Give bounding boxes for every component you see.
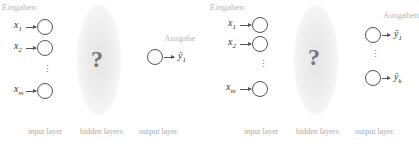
hidden-question-mark: ? xyxy=(308,44,320,71)
arrow-icon xyxy=(240,25,251,26)
hidden-question-mark: ? xyxy=(91,46,103,73)
input-var-xm: xm xyxy=(14,83,24,97)
arrow-icon xyxy=(26,91,36,92)
input-var-x1: x1 xyxy=(228,17,236,31)
output-layer-label: output layer xyxy=(355,127,393,136)
input-layer-label: input layer xyxy=(244,127,278,136)
inputs-label: Eingaben xyxy=(210,2,244,12)
vertical-ellipsis-output: ⋮ xyxy=(371,53,380,56)
input-node-m xyxy=(37,83,53,99)
diagram-single-output: Eingaben x1 x2 ⋮ xm ? Ausgabe ŷ1 input l… xyxy=(0,0,208,147)
output-var-y1: ŷ1 xyxy=(394,28,402,42)
output-layer-label: output layer xyxy=(139,127,177,136)
arrow-icon xyxy=(164,57,174,58)
arrow-icon xyxy=(26,48,36,49)
vertical-ellipsis: ⋮ xyxy=(43,68,52,71)
input-var-x2: x2 xyxy=(14,40,22,54)
input-var-x1: x1 xyxy=(14,19,22,33)
input-node-1 xyxy=(252,17,268,33)
arrow-icon xyxy=(382,78,390,79)
arrow-icon xyxy=(382,35,390,36)
arrow-icon xyxy=(240,44,251,45)
input-node-2 xyxy=(252,36,268,52)
output-node-1 xyxy=(365,27,381,43)
output-node-k xyxy=(365,70,381,86)
arrow-icon xyxy=(240,89,251,90)
input-layer-label: input layer xyxy=(28,127,62,136)
output-var-y1: ŷ1 xyxy=(178,50,186,64)
inputs-label: Eingaben xyxy=(2,2,36,12)
input-var-x2: x2 xyxy=(228,36,236,50)
output-node-1 xyxy=(147,49,163,65)
output-var-yk: ŷk xyxy=(394,71,402,85)
input-node-2 xyxy=(37,40,53,56)
input-node-1 xyxy=(37,19,53,35)
outputs-label: Ausgaben xyxy=(383,10,419,20)
hidden-layers-label: hidden layers xyxy=(296,127,339,136)
arrow-icon xyxy=(26,27,36,28)
diagram-multi-output: Eingaben x1 x2 ⋮ xm ? Ausgaben ŷ1 ⋮ ŷk i… xyxy=(208,0,416,147)
input-var-xm: xm xyxy=(226,81,236,95)
input-node-m xyxy=(252,81,268,97)
vertical-ellipsis: ⋮ xyxy=(259,63,268,66)
outputs-label: Ausgabe xyxy=(164,33,196,43)
hidden-layers-label: hidden layers xyxy=(80,127,123,136)
